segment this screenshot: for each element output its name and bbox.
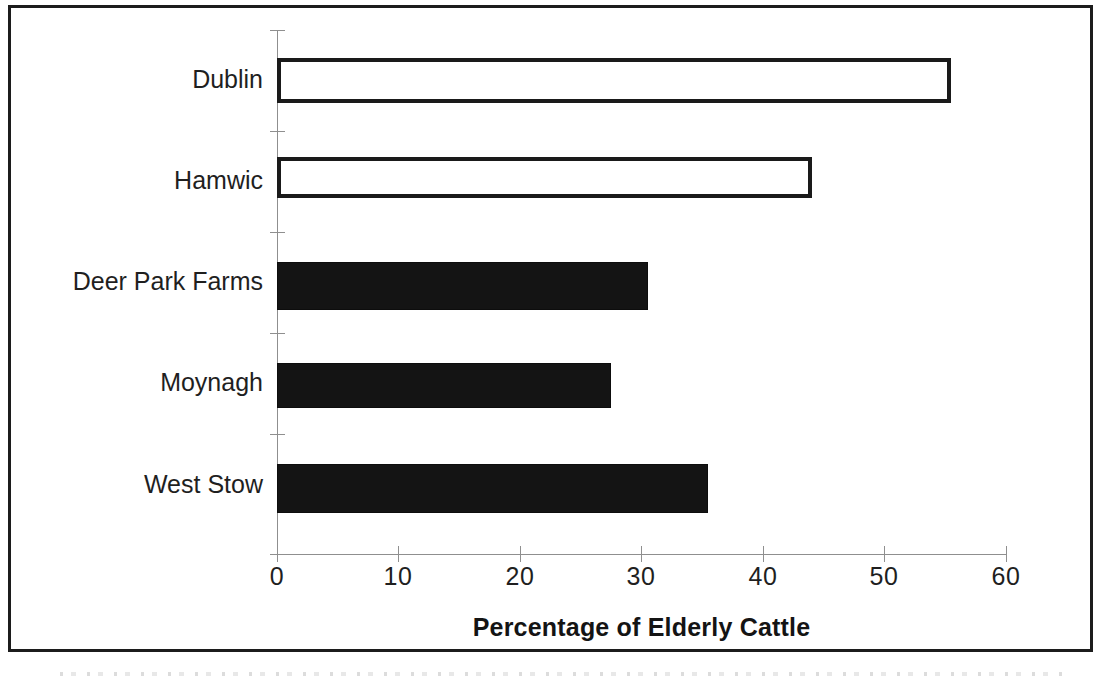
y-axis-tick <box>270 232 285 233</box>
x-axis-tick-label: 60 <box>976 562 1036 591</box>
category-label-deer-park-farms: Deer Park Farms <box>15 267 277 296</box>
bar-deer-park-farms <box>277 262 648 310</box>
category-label-hamwic: Hamwic <box>15 166 277 195</box>
category-label-row: Hamwic <box>0 166 277 196</box>
bar-moynagh <box>277 363 611 408</box>
x-axis-tick <box>520 546 521 562</box>
y-axis-tick <box>270 131 285 132</box>
y-axis-tick <box>270 333 285 334</box>
y-axis-tick <box>270 30 285 31</box>
y-axis-tick <box>270 434 285 435</box>
category-label-row: West Stow <box>0 470 277 500</box>
x-axis-tick <box>884 546 885 562</box>
x-axis-tick-label: 30 <box>611 562 671 591</box>
x-axis-tick-label: 20 <box>490 562 550 591</box>
x-axis-tick <box>1006 546 1007 562</box>
category-label-row: Moynagh <box>0 368 277 398</box>
bar-hamwic <box>277 157 812 198</box>
x-axis-tick-label: 10 <box>368 562 428 591</box>
bar-chart: 0 10 20 30 40 50 60 Dublin Hamwic Deer P… <box>0 0 1115 683</box>
x-axis-tick <box>398 546 399 562</box>
category-label-moynagh: Moynagh <box>15 368 277 397</box>
x-axis-tick-label: 50 <box>854 562 914 591</box>
x-axis-tick <box>277 546 278 562</box>
x-axis-tick <box>763 546 764 562</box>
x-axis-title: Percentage of Elderly Cattle <box>277 613 1006 642</box>
scan-noise <box>60 672 1070 676</box>
category-label-west-stow: West Stow <box>15 470 277 499</box>
x-axis-tick <box>641 546 642 562</box>
category-label-dublin: Dublin <box>15 65 277 94</box>
category-label-row: Deer Park Farms <box>0 267 277 297</box>
x-axis-tick-label: 0 <box>247 562 307 591</box>
x-axis-tick-label: 40 <box>733 562 793 591</box>
bar-west-stow <box>277 464 708 513</box>
bar-dublin <box>277 58 951 103</box>
category-label-row: Dublin <box>0 65 277 95</box>
